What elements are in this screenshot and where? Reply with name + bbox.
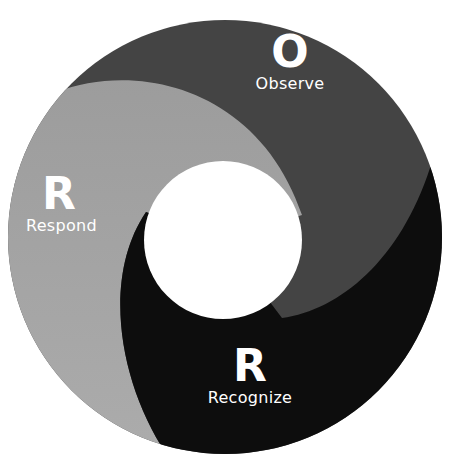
observe-word: Observe [240,76,340,92]
recognize-letter: R [200,344,300,388]
label-recognize: R Recognize [200,344,300,406]
center-hole [144,161,302,319]
recognize-word: Recognize [200,390,300,406]
respond-letter: R [42,172,116,216]
label-observe: O Observe [240,30,340,92]
label-respond: R Respond [26,172,116,234]
observe-letter: O [240,30,340,74]
respond-word: Respond [26,218,116,234]
